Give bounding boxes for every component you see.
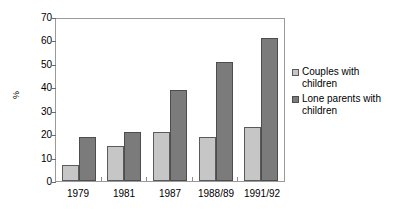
legend-label: Couples with children (302, 66, 396, 90)
y-axis-tick-label: 10 (24, 154, 52, 164)
bar[interactable] (216, 62, 233, 181)
plot-area (55, 18, 285, 182)
y-axis-tick-label: 30 (24, 107, 52, 117)
y-axis-tick-mark (52, 182, 56, 183)
bar[interactable] (62, 165, 79, 181)
bar-group (147, 19, 193, 181)
y-axis-tick-label: 20 (24, 130, 52, 140)
bar[interactable] (244, 127, 261, 181)
y-axis-tick-label: 40 (24, 83, 52, 93)
y-axis-tick-mark (52, 159, 56, 160)
bar[interactable] (170, 90, 187, 181)
y-axis-tick-label: 70 (24, 13, 52, 23)
bar-group (238, 19, 284, 181)
bar[interactable] (107, 146, 124, 181)
y-axis-tick-label: 0 (24, 177, 52, 187)
x-axis-tick-label: 1981 (101, 186, 147, 202)
legend-item[interactable]: Lone parents with children (292, 93, 396, 117)
bar-group (193, 19, 239, 181)
bar[interactable] (124, 132, 141, 181)
bar-group (102, 19, 148, 181)
y-axis-tick-mark (52, 65, 56, 66)
bar-group (56, 19, 102, 181)
y-axis-tick-mark (52, 135, 56, 136)
x-axis-tick-label: 1988/89 (193, 186, 239, 202)
legend-swatch-icon (292, 69, 299, 76)
y-axis-tick-mark (52, 112, 56, 113)
bar[interactable] (261, 38, 278, 181)
x-axis-tick-label: 1979 (55, 186, 101, 202)
chart-legend: Couples with childrenLone parents with c… (292, 66, 396, 120)
y-axis-tick-label: 60 (24, 36, 52, 46)
bar[interactable] (79, 137, 96, 182)
x-axis-tick-labels: 1979198119871988/891991/92 (55, 186, 285, 202)
y-axis-tick-mark (52, 88, 56, 89)
legend-item[interactable]: Couples with children (292, 66, 396, 90)
x-axis-tick-label: 1991/92 (239, 186, 285, 202)
bar[interactable] (153, 132, 170, 181)
bar-groups (56, 19, 284, 181)
bar[interactable] (199, 137, 216, 182)
y-axis-tick-mark (52, 18, 56, 19)
legend-label: Lone parents with children (302, 93, 396, 117)
y-axis-tick-labels: 010203040506070 (22, 0, 52, 220)
y-axis-tick-label: 50 (24, 60, 52, 70)
legend-swatch-icon (292, 96, 299, 103)
bar-chart-figure: % 010203040506070 1979198119871988/89199… (0, 0, 401, 220)
y-axis-tick-mark (52, 41, 56, 42)
x-axis-tick-label: 1987 (147, 186, 193, 202)
